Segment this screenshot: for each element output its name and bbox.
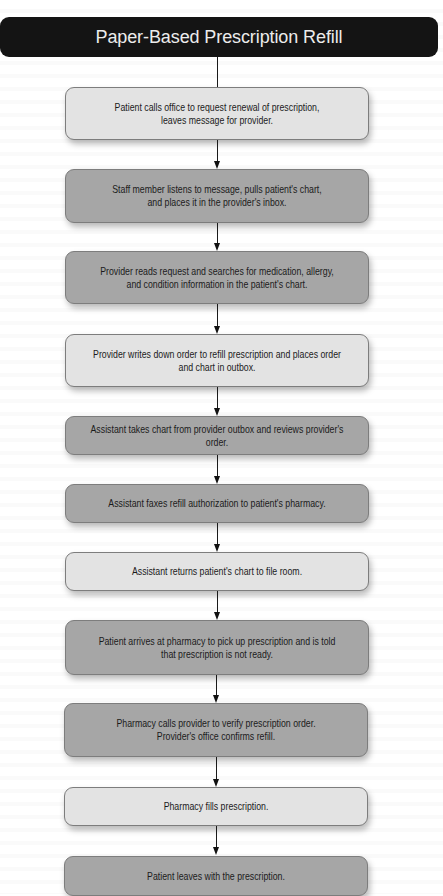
arrow-down-icon: [214, 408, 220, 416]
connector-line: [216, 675, 217, 696]
flow-step-text: Pharmacy fills prescription.: [86, 800, 346, 813]
flowchart-title: Paper-Based Prescription Refill: [95, 27, 342, 48]
flow-step-11: Patient leaves with the prescription.: [64, 856, 368, 896]
flow-step-text: Patient arrives at pharmacy to pick up p…: [87, 635, 347, 661]
flow-step-text: Patient calls office to request renewal …: [87, 101, 347, 127]
flow-step-text: Assistant faxes refill authorization to …: [87, 497, 347, 510]
connector-line: [217, 223, 218, 244]
connector-line: [217, 387, 218, 409]
flow-step-1: Patient calls office to request renewal …: [65, 87, 369, 140]
flow-step-text: Patient leaves with the prescription.: [86, 870, 346, 883]
arrow-down-icon: [214, 243, 220, 251]
flow-step-2: Staff member listens to message, pulls p…: [65, 169, 369, 223]
flow-step-5: Assistant takes chart from provider outb…: [65, 416, 369, 455]
flow-step-text: Provider reads request and searches for …: [87, 265, 347, 291]
connector-line: [216, 757, 217, 780]
arrow-down-icon: [213, 847, 219, 855]
flow-step-text: Assistant takes chart from provider outb…: [87, 423, 347, 449]
connector-line: [217, 455, 218, 477]
flow-step-text: Provider writes down order to refill pre…: [87, 348, 347, 374]
flow-step-text: Assistant returns patient's chart to fil…: [87, 565, 347, 578]
arrow-down-icon: [214, 544, 220, 552]
flow-step-3: Provider reads request and searches for …: [65, 251, 369, 304]
flow-step-text: Pharmacy calls provider to verify prescr…: [86, 717, 346, 743]
arrow-down-icon: [213, 695, 219, 703]
flow-step-6: Assistant faxes refill authorization to …: [65, 484, 369, 523]
arrow-down-icon: [214, 161, 220, 169]
flow-step-4: Provider writes down order to refill pre…: [65, 334, 369, 387]
connector-line: [216, 826, 217, 848]
connector-line: [217, 591, 218, 613]
arrow-down-icon: [214, 612, 220, 620]
flow-step-7: Assistant returns patient's chart to fil…: [65, 552, 369, 591]
flow-step-10: Pharmacy fills prescription.: [64, 787, 368, 826]
connector-line: [217, 57, 218, 87]
flowchart-title-bar: Paper-Based Prescription Refill: [0, 17, 438, 57]
connector-line: [217, 523, 218, 545]
arrow-down-icon: [214, 476, 220, 484]
connector-line: [217, 140, 218, 162]
arrow-down-icon: [213, 779, 219, 787]
flow-step-text: Staff member listens to message, pulls p…: [87, 183, 347, 209]
flow-step-9: Pharmacy calls provider to verify prescr…: [64, 703, 368, 757]
arrow-down-icon: [214, 326, 220, 334]
connector-line: [217, 304, 218, 327]
flow-step-8: Patient arrives at pharmacy to pick up p…: [65, 620, 369, 675]
